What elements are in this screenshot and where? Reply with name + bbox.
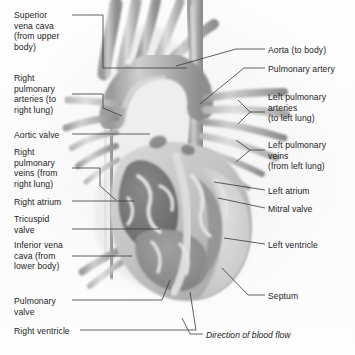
label-right-atrium: Right atrium [14,197,61,208]
leader-septum [222,268,265,295]
leader-left-pulmonary-veins [236,140,265,162]
label-left-ventricle: Left ventricle [268,240,318,251]
leader-mitral-valve [218,198,265,208]
leader-pulmonary-valve [72,280,170,300]
label-left-atrium: Left atrium [268,186,310,197]
leader-direction-of-blood-flow [182,318,203,334]
label-aortic-valve: Aortic valve [14,130,59,141]
diagram-canvas: Superior vena cava (from upper body) Rig… [0,0,355,355]
caption-direction-of-blood-flow: Direction of blood flow [206,330,291,341]
label-right-ventricle: Right ventricle [14,326,70,337]
label-tricuspid-valve: Tricuspid valve [14,214,49,235]
leader-left-ventricle [224,238,265,244]
label-pulmonary-valve: Pulmonary valve [14,296,56,317]
label-mitral-valve: Mitral valve [268,204,313,215]
label-right-pulmonary-veins: Right pulmonary veins (from right lung) [14,147,57,189]
leader-aorta [176,49,265,66]
leader-right-pulmonary-veins [72,168,116,200]
label-septum: Septum [268,291,298,302]
label-inferior-vena-cava: Inferior vena cava (from lower body) [14,240,63,272]
leader-right-pulmonary-arteries [72,94,122,116]
label-pulmonary-artery: Pulmonary artery [268,64,335,75]
label-aorta: Aorta (to body) [268,45,326,56]
label-right-pulmonary-arteries: Right pulmonary arteries (to right lung) [14,73,56,115]
label-left-pulmonary-arteries: Left pulmonary arteries (to left lung) [268,92,326,124]
leader-superior-vena-cava [72,15,187,68]
label-left-pulmonary-veins: Left pulmonary veins (from left lung) [268,140,326,172]
leader-pulmonary-artery [200,68,265,104]
leader-left-atrium [214,182,265,190]
label-superior-vena-cava: Superior vena cava (from upper body) [14,10,59,52]
leader-right-ventricle [80,292,196,330]
leader-left-pulmonary-arteries [238,100,265,124]
